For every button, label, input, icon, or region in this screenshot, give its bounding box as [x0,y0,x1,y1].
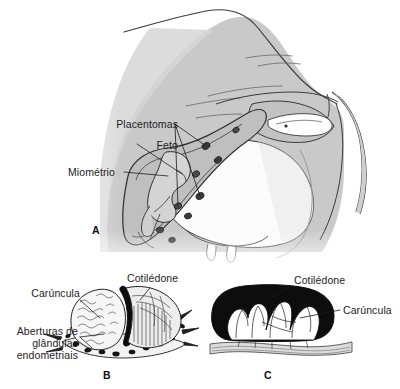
cotyledon-dome [126,287,181,348]
panel-letter-b: B [103,369,111,381]
endometrium-band [210,340,352,355]
label-aberturas-line1: Aberturas de [0,325,78,338]
panel-letter-c: C [264,369,272,381]
label-aberturas-line3: endometriais [0,349,78,362]
label-aberturas-line2: glândulas [0,337,78,350]
label-miometrio: Miométrio [10,166,115,179]
label-feto: Feto [58,139,178,152]
label-cotiledone-b: Cotilédone [127,272,178,285]
panel-letter-a: A [92,224,100,236]
label-placentomas: Placentomas [38,118,178,131]
label-cotiledone-c: Cotilédone [294,274,345,287]
label-caruncula-c: Carúncula [343,304,392,317]
panel-a-illustration [0,0,400,270]
figure-root: Placentomas Feto Miométrio A Carúncula C… [0,0,400,389]
label-caruncula-b: Carúncula [0,287,80,300]
panel-c-illustration [210,285,352,356]
